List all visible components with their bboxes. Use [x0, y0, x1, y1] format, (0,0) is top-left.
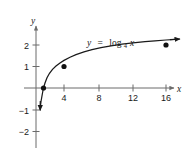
equation-lhs: y: [86, 38, 92, 48]
data-point-4-1: [61, 64, 66, 69]
x-axis-label: x: [176, 84, 182, 94]
data-point-1-0: [41, 85, 46, 90]
graph-canvas: 4 8 12 16 2 1 −1 −2 x y y = log 4 x: [0, 0, 189, 157]
y-tick-label-2: 2: [24, 41, 29, 51]
x-tick-label-16: 16: [161, 93, 171, 103]
y-tick-label-minus-1: −1: [19, 106, 29, 116]
x-tick-label-12: 12: [128, 93, 138, 103]
y-tick-label-1: 1: [24, 62, 29, 72]
x-tick-label-4: 4: [61, 93, 66, 103]
equation-annotation: y = log 4 x: [86, 38, 135, 50]
logarithm-graph-figure: 4 8 12 16 2 1 −1 −2 x y y = log 4 x: [0, 0, 189, 157]
equation-equals: =: [98, 38, 103, 48]
curve-right-arrow: [170, 39, 180, 40]
equation-func: log: [109, 38, 121, 48]
equation-arg: x: [129, 38, 135, 48]
x-tick-label-8: 8: [96, 93, 101, 103]
data-point-16-2: [163, 42, 168, 47]
y-axis-label: y: [30, 16, 36, 26]
svg-text:y = log: y = log 4 x: [86, 38, 135, 50]
equation-base: 4: [124, 42, 128, 49]
y-tick-label-minus-2: −2: [19, 127, 29, 137]
